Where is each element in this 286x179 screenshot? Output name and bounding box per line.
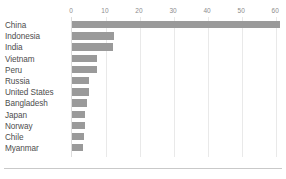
category-label: Bangladesh (5, 99, 48, 108)
x-tick-label: 20 (135, 6, 142, 15)
category-label: United States (5, 88, 54, 97)
bar[interactable] (72, 55, 97, 62)
bar[interactable] (72, 43, 113, 50)
category-row: China (5, 20, 69, 31)
category-row: Chile (5, 132, 69, 143)
bar[interactable] (72, 88, 89, 95)
x-tick-label: 0 (69, 6, 73, 15)
category-row: Myanmar (5, 143, 69, 154)
bar-row (72, 121, 282, 132)
bar-row (72, 42, 282, 53)
bar[interactable] (72, 66, 97, 73)
category-label: Norway (5, 122, 32, 131)
bar[interactable] (72, 77, 89, 84)
bar-row (72, 31, 282, 42)
category-row: Japan (5, 110, 69, 121)
bar-row (72, 143, 282, 154)
category-row: India (5, 42, 69, 53)
x-tick-label: 50 (237, 6, 244, 15)
bar-row (72, 132, 282, 143)
category-label: China (5, 21, 26, 30)
bar-row (72, 76, 282, 87)
category-label: Indonesia (5, 32, 40, 41)
category-row: Peru (5, 65, 69, 76)
bar-row (72, 65, 282, 76)
category-row: United States (5, 87, 69, 98)
bar-row (72, 110, 282, 121)
category-label: India (5, 43, 23, 52)
bar-row (72, 87, 282, 98)
bottom-divider (4, 168, 282, 169)
bar[interactable] (72, 99, 87, 106)
plot-area (71, 17, 282, 157)
bar-row (72, 98, 282, 109)
x-tick-label: 60 (271, 6, 278, 15)
bar[interactable] (72, 122, 85, 129)
x-tick-label: 40 (203, 6, 210, 15)
bars-container (72, 20, 282, 157)
x-tick-label: 10 (101, 6, 108, 15)
bar[interactable] (72, 32, 114, 39)
category-label: Peru (5, 66, 22, 75)
bar-row (72, 20, 282, 31)
bar-chart: 0102030405060 ChinaIndonesiaIndiaVietnam… (0, 0, 286, 179)
x-axis-tick-labels: 0102030405060 (71, 6, 281, 17)
category-label: Russia (5, 77, 30, 86)
category-row: Bangladesh (5, 98, 69, 109)
category-axis-labels: ChinaIndonesiaIndiaVietnamPeruRussiaUnit… (5, 20, 69, 154)
bar[interactable] (72, 111, 85, 118)
category-row: Indonesia (5, 31, 69, 42)
x-tick-label: 30 (169, 6, 176, 15)
category-row: Norway (5, 121, 69, 132)
bar[interactable] (72, 133, 84, 140)
category-label: Myanmar (5, 144, 39, 153)
category-label: Japan (5, 111, 27, 120)
bar-row (72, 54, 282, 65)
category-row: Russia (5, 76, 69, 87)
bar[interactable] (72, 144, 83, 151)
bar[interactable] (72, 21, 280, 28)
category-row: Vietnam (5, 54, 69, 65)
category-label: Vietnam (5, 55, 35, 64)
category-label: Chile (5, 133, 23, 142)
